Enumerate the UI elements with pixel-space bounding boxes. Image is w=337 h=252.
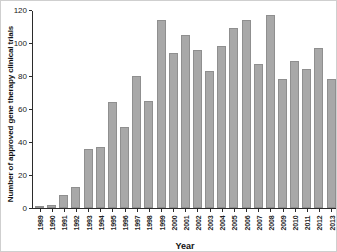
xtick-mark-1994 (100, 209, 101, 212)
xtick-mark-1996 (125, 209, 126, 212)
bar-2002 (193, 50, 202, 208)
bar-2008 (266, 15, 275, 208)
ytick-label-0: 0 (1, 204, 27, 213)
xtick-label-2001: 2001 (182, 216, 189, 231)
xtick-mark-1999 (161, 209, 162, 212)
xtick-mark-1992 (76, 209, 77, 212)
xtick-mark-1998 (149, 209, 150, 212)
bar-1998 (144, 101, 153, 208)
xtick-label-2011: 2011 (304, 216, 311, 230)
bar-2012 (314, 48, 323, 208)
xtick-label-1998: 1998 (146, 216, 153, 231)
xtick-mark-1990 (52, 209, 53, 212)
ytick-mark-0 (29, 208, 32, 209)
y-axis-line (32, 11, 33, 209)
xtick-mark-2012 (319, 209, 320, 212)
xtick-label-2003: 2003 (207, 216, 214, 231)
xtick-label-2013: 2013 (328, 216, 335, 231)
ytick-mark-120 (29, 10, 32, 11)
bar-1999 (157, 20, 166, 208)
xtick-label-2002: 2002 (194, 216, 201, 231)
ytick-mark-80 (29, 76, 32, 77)
xtick-label-2004: 2004 (219, 216, 226, 231)
bar-1993 (84, 149, 93, 208)
bar-2001 (181, 35, 190, 208)
ytick-mark-40 (29, 142, 32, 143)
xtick-label-2008: 2008 (267, 216, 274, 231)
xtick-label-1992: 1992 (73, 216, 80, 231)
xtick-label-2005: 2005 (231, 216, 238, 231)
bar-1995 (108, 102, 117, 208)
xtick-mark-2010 (295, 209, 296, 212)
xtick-label-2010: 2010 (292, 216, 299, 231)
ytick-mark-60 (29, 109, 32, 110)
bar-1996 (120, 127, 129, 208)
bar-1997 (132, 76, 141, 208)
bar-1990 (47, 205, 56, 208)
bar-2011 (302, 69, 311, 208)
ytick-label-60: 60 (1, 105, 27, 114)
bar-1991 (59, 195, 68, 208)
bar-1994 (96, 147, 105, 208)
ytick-label-80: 80 (1, 72, 27, 81)
xtick-mark-2004 (222, 209, 223, 212)
ytick-label-20: 20 (1, 171, 27, 180)
xtick-label-2009: 2009 (280, 216, 287, 231)
bar-1989 (35, 206, 44, 208)
xtick-label-2006: 2006 (243, 216, 250, 231)
xtick-label-1989: 1989 (37, 216, 44, 231)
ytick-mark-100 (29, 43, 32, 44)
xtick-mark-1997 (137, 209, 138, 212)
xtick-mark-1993 (88, 209, 89, 212)
xtick-label-1996: 1996 (122, 216, 129, 231)
xtick-label-2007: 2007 (255, 216, 262, 231)
xtick-label-2012: 2012 (316, 216, 323, 231)
xtick-label-1990: 1990 (49, 216, 56, 231)
bar-2013 (327, 79, 336, 208)
xtick-label-1999: 1999 (158, 216, 165, 231)
ytick-label-40: 40 (1, 138, 27, 147)
xtick-label-1995: 1995 (109, 216, 116, 231)
bar-2009 (278, 79, 287, 208)
xtick-label-1991: 1991 (61, 216, 68, 231)
bar-2003 (205, 71, 214, 208)
xtick-label-2000: 2000 (170, 216, 177, 231)
bar-2005 (229, 28, 238, 208)
xtick-mark-1989 (40, 209, 41, 212)
xtick-mark-2003 (210, 209, 211, 212)
bar-2000 (169, 53, 178, 208)
xtick-mark-2001 (185, 209, 186, 212)
xtick-mark-2000 (173, 209, 174, 212)
bar-2006 (242, 20, 251, 208)
bar-chart-figure: Number of approved gene therapy clinical… (0, 0, 337, 252)
xtick-mark-1995 (112, 209, 113, 212)
xtick-label-1993: 1993 (85, 216, 92, 231)
bar-2010 (290, 61, 299, 208)
bar-2004 (217, 46, 226, 208)
xtick-mark-2002 (197, 209, 198, 212)
xtick-label-1997: 1997 (134, 216, 141, 231)
bar-2007 (254, 64, 263, 208)
xtick-label-1994: 1994 (97, 216, 104, 231)
bar-1992 (71, 187, 80, 208)
xtick-mark-2005 (234, 209, 235, 212)
xtick-mark-2008 (270, 209, 271, 212)
xtick-mark-1991 (64, 209, 65, 212)
xtick-mark-2013 (331, 209, 332, 212)
ytick-label-100: 100 (1, 39, 27, 48)
xtick-mark-2007 (258, 209, 259, 212)
ytick-label-120: 120 (1, 6, 27, 15)
x-axis-title: Year (175, 241, 194, 251)
xtick-mark-2011 (307, 209, 308, 212)
xtick-mark-2006 (246, 209, 247, 212)
xtick-mark-2009 (283, 209, 284, 212)
ytick-mark-20 (29, 175, 32, 176)
